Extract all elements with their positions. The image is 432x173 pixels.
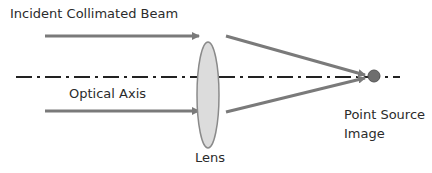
optical-axis-label: Optical Axis (69, 86, 146, 102)
incident-beam-label: Incident Collimated Beam (10, 6, 178, 22)
lens-label: Lens (195, 150, 225, 166)
point-source-label-line1: Point Source (344, 107, 425, 123)
point-source-label-line2: Image (344, 126, 385, 142)
refracted-ray-top (226, 36, 365, 75)
optics-diagram (0, 0, 432, 173)
lens-shape (197, 42, 219, 148)
point-source-dot (368, 70, 380, 82)
